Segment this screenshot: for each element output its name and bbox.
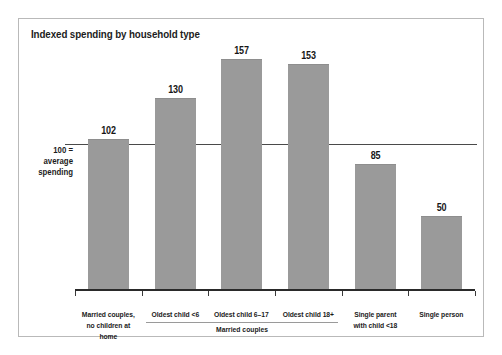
group-bracket-label: Married couples [151, 325, 331, 334]
axis-tick [342, 291, 343, 296]
category-label-line1: Single parent [344, 309, 407, 320]
bar-rect [421, 216, 462, 290]
bar-1: 102 [88, 139, 129, 289]
bar-2: 130 [155, 98, 196, 289]
plot-area: 1021301571538550 [75, 41, 475, 291]
bar-value-label: 157 [223, 45, 260, 56]
bar-4: 153 [288, 64, 329, 289]
bar-rect [221, 59, 262, 290]
chart-title: Indexed spending by household type [31, 28, 200, 40]
chart-frame: Indexed spending by household type 100 =… [18, 18, 484, 337]
axis-tick [408, 291, 409, 296]
category-label-line2: no children at home [77, 320, 140, 342]
axis-tick [208, 291, 209, 296]
bar-value-label: 85 [357, 150, 394, 161]
axis-tick [275, 291, 276, 296]
reference-line-label-word-spending: spending [25, 167, 73, 178]
bar-value-label: 130 [157, 84, 194, 95]
bar-5: 85 [355, 164, 396, 289]
bar-rect [355, 164, 396, 289]
axis-tick [142, 291, 143, 296]
group-bracket-line [146, 322, 338, 323]
category-label-4: Oldest child 18+ [277, 309, 340, 320]
bar-value-label: 102 [90, 125, 127, 136]
category-label-line1: Oldest child 6–17 [210, 309, 273, 320]
reference-line-label-word-average: average [25, 156, 73, 167]
bar-rect [88, 139, 129, 289]
category-label-3: Oldest child 6–17 [210, 309, 273, 320]
category-label-6: Single person [410, 309, 473, 320]
reference-line-label: 100 = average spending [25, 145, 73, 179]
bar-6: 50 [421, 216, 462, 290]
category-label-1: Married couples,no children at home [77, 309, 140, 342]
bar-value-label: 153 [290, 50, 327, 61]
category-label-5: Single parentwith child <18 [344, 309, 407, 331]
axis-tick [475, 291, 476, 296]
axis-tick [75, 291, 76, 296]
category-label-line2: with child <18 [344, 320, 407, 331]
bar-rect [288, 64, 329, 289]
category-label-line1: Married couples, [77, 309, 140, 320]
reference-line-label-value: 100 = [25, 145, 73, 156]
category-label-2: Oldest child <6 [144, 309, 207, 320]
category-label-line1: Oldest child 18+ [277, 309, 340, 320]
category-label-line1: Oldest child <6 [144, 309, 207, 320]
category-label-line1: Single person [410, 309, 473, 320]
bar-value-label: 50 [423, 202, 460, 213]
bar-3: 157 [221, 59, 262, 290]
bar-rect [155, 98, 196, 289]
